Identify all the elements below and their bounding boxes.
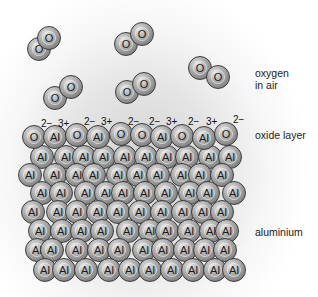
- ion-charge-label: 2−: [188, 117, 199, 127]
- atom-symbol: Al: [50, 169, 60, 181]
- ion-charge-label: 3+: [101, 117, 112, 127]
- ion-charge-label: 2−: [41, 119, 52, 129]
- atom-symbol: O: [123, 86, 132, 98]
- atom-symbol: Al: [25, 169, 35, 181]
- atom-symbol: O: [73, 129, 82, 141]
- atom-symbol: Al: [145, 264, 155, 276]
- atom-symbol: Al: [222, 225, 232, 237]
- atom-symbol: Al: [167, 264, 177, 276]
- atom-symbol: Al: [125, 264, 135, 276]
- diagram-atoms: AlAlAlAlAlAlAlAlAlAlAlAlAlAlAlAlAlAlAlAl…: [0, 0, 318, 297]
- oxygen-molecule-atom: O: [37, 26, 61, 50]
- atom-symbol: Al: [141, 151, 151, 163]
- atom-symbol: O: [196, 62, 205, 74]
- atom-symbol: Al: [210, 264, 220, 276]
- atom-symbol: O: [67, 81, 76, 93]
- atom-symbol: Al: [195, 169, 205, 181]
- atom-symbol: Al: [188, 264, 198, 276]
- atom-symbol: Al: [162, 225, 172, 237]
- atom-symbol: Al: [79, 151, 89, 163]
- atom-symbol: Al: [178, 206, 188, 218]
- atom-symbol: Al: [35, 225, 45, 237]
- oxide-layer-label: oxide layer: [255, 129, 306, 141]
- atom-symbol: Al: [133, 169, 143, 181]
- atom-symbol: Al: [229, 187, 239, 199]
- aluminium-atom: Al: [74, 258, 98, 282]
- atom-symbol: Al: [220, 244, 230, 256]
- atom-symbol: Al: [123, 225, 133, 237]
- ion-charge-label: 2−: [84, 117, 95, 127]
- atom-symbol: Al: [118, 187, 128, 199]
- atom-symbol: O: [122, 38, 131, 50]
- ion-charge-label: 2−: [149, 117, 160, 127]
- atom-symbol: Al: [97, 225, 107, 237]
- atom-symbol: Al: [89, 169, 99, 181]
- atom-symbol: Al: [217, 206, 227, 218]
- atom-symbol: O: [138, 28, 147, 40]
- atom-symbol: O: [222, 128, 231, 140]
- atom-symbol: Al: [104, 264, 114, 276]
- ion-charge-label: 2−: [128, 117, 139, 127]
- atom-symbol: Al: [177, 169, 187, 181]
- atom-symbol: O: [178, 130, 187, 142]
- atom-symbol: Al: [113, 206, 123, 218]
- atom-symbol: Al: [72, 169, 82, 181]
- atom-symbol: Al: [162, 151, 172, 163]
- atom-symbol: Al: [161, 187, 171, 199]
- atom-symbol: Al: [200, 244, 210, 256]
- atom-symbol: Al: [217, 169, 227, 181]
- atom-symbol: Al: [199, 132, 209, 144]
- atom-symbol: Al: [37, 151, 47, 163]
- atom-symbol: O: [45, 32, 54, 44]
- aluminium-label: aluminium: [255, 226, 303, 238]
- atom-symbol: Al: [229, 264, 239, 276]
- ion-charge-label: 3+: [206, 117, 217, 127]
- oxygen-molecule-atom: O: [59, 75, 83, 99]
- aluminium-atom: Al: [52, 258, 76, 282]
- atom-symbol: Al: [53, 206, 63, 218]
- atom-symbol: Al: [40, 264, 50, 276]
- aluminium-ion: Al: [86, 125, 110, 149]
- atom-symbol: O: [138, 129, 147, 141]
- atom-symbol: Al: [99, 151, 109, 163]
- atom-symbol: Al: [56, 187, 66, 199]
- atom-symbol: Al: [37, 187, 47, 199]
- atom-symbol: Al: [93, 206, 103, 218]
- atom-symbol: Al: [203, 187, 213, 199]
- atom-symbol: Al: [145, 225, 155, 237]
- atom-symbol: Al: [81, 264, 91, 276]
- atom-symbol: Al: [205, 151, 215, 163]
- aluminium-atom: Al: [181, 258, 205, 282]
- atom-symbol: Al: [157, 206, 167, 218]
- atom-symbol: Al: [140, 187, 150, 199]
- atom-symbol: Al: [72, 244, 82, 256]
- atom-symbol: Al: [184, 225, 194, 237]
- atom-symbol: Al: [158, 244, 168, 256]
- oxygen-label-line1: oxygen: [255, 67, 289, 79]
- atom-symbol: Al: [50, 131, 60, 143]
- oxygen-molecule-atom: O: [206, 65, 230, 89]
- ion-charge-label: 3+: [58, 119, 69, 129]
- atom-symbol: Al: [94, 244, 104, 256]
- atom-symbol: Al: [61, 151, 71, 163]
- oxygen-in-air-label: oxygen in air: [255, 67, 289, 91]
- atom-symbol: Al: [77, 225, 87, 237]
- atom-symbol: Al: [28, 206, 38, 218]
- atom-symbol: Al: [182, 151, 192, 163]
- oxygen-label-line2: in air: [255, 79, 289, 91]
- atom-symbol: O: [30, 131, 39, 143]
- atom-symbol: Al: [59, 264, 69, 276]
- ion-charge-label: 3+: [166, 117, 177, 127]
- atom-symbol: Al: [57, 225, 67, 237]
- atom-symbol: Al: [113, 169, 123, 181]
- atom-symbol: O: [214, 71, 223, 83]
- oxide-ion: O: [170, 124, 194, 148]
- atom-symbol: O: [51, 92, 60, 104]
- atom-symbol: Al: [93, 131, 103, 143]
- atom-symbol: Al: [81, 187, 91, 199]
- atom-symbol: Al: [101, 187, 111, 199]
- atom-symbol: O: [140, 78, 149, 90]
- atom-symbol: Al: [120, 151, 130, 163]
- atom-symbol: Al: [114, 244, 124, 256]
- atom-symbol: Al: [198, 206, 208, 218]
